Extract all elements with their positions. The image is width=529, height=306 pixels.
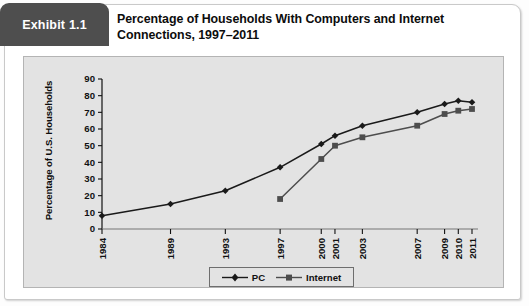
svg-text:10: 10 (84, 207, 95, 218)
exhibit-title: Percentage of Households With Computers … (117, 12, 509, 43)
svg-text:50: 50 (84, 140, 95, 151)
exhibit-card: Exhibit 1.1 Percentage of Households Wit… (4, 4, 521, 300)
legend-item-pc: PC (222, 272, 265, 283)
svg-text:70: 70 (84, 107, 95, 118)
chart-panel: Percentage of U.S. Households 0102030405… (23, 56, 504, 288)
internet-marker-icon (276, 272, 302, 283)
svg-text:1997: 1997 (275, 238, 286, 259)
line-chart-svg: 0102030405060708090 19841989199319972000… (24, 57, 505, 289)
svg-text:2000: 2000 (316, 238, 327, 259)
svg-text:2007: 2007 (412, 238, 423, 259)
svg-text:90: 90 (84, 73, 95, 84)
chart-legend: PC Internet (209, 267, 354, 287)
y-tick-labels: 0102030405060708090 (84, 73, 95, 234)
svg-text:30: 30 (84, 173, 95, 184)
svg-text:40: 40 (84, 157, 95, 168)
x-tick-labels: 1984198919931997200020012003200720092010… (97, 237, 478, 259)
exhibit-figure: Exhibit 1.1 Percentage of Households Wit… (0, 0, 529, 306)
legend-label-internet: Internet (306, 272, 341, 283)
svg-text:2011: 2011 (467, 237, 478, 258)
legend-label-pc: PC (252, 272, 265, 283)
axes-layer (98, 79, 478, 234)
svg-text:1989: 1989 (165, 238, 176, 259)
exhibit-header: Exhibit 1.1 Percentage of Households Wit… (5, 5, 522, 52)
svg-text:1984: 1984 (97, 237, 108, 259)
svg-text:2001: 2001 (330, 237, 341, 259)
svg-text:1993: 1993 (220, 238, 231, 259)
svg-text:20: 20 (84, 190, 95, 201)
exhibit-badge: Exhibit 1.1 (1, 4, 108, 45)
legend-item-internet: Internet (276, 272, 341, 283)
svg-text:0: 0 (90, 223, 95, 234)
series-layer (99, 97, 476, 219)
svg-text:2010: 2010 (453, 238, 464, 259)
svg-text:2003: 2003 (357, 238, 368, 259)
svg-text:60: 60 (84, 123, 95, 134)
pc-marker-icon (222, 272, 248, 283)
svg-text:80: 80 (84, 90, 95, 101)
svg-text:2009: 2009 (439, 238, 450, 259)
